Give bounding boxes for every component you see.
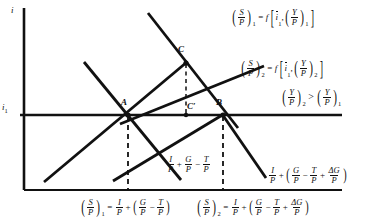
bot1-equals: = — [107, 203, 112, 212]
outer-term-3: T P — [310, 166, 317, 184]
bot1-t3-num: T — [157, 198, 164, 207]
inner-op-1: + — [177, 160, 182, 169]
bot1-lhs: ( S P ) 1 — [80, 198, 105, 216]
inequality-left-den: P — [288, 97, 295, 107]
saving2-function: f — [275, 64, 278, 73]
outer-t4-den: P — [330, 175, 337, 185]
outer-op-3: + — [320, 171, 325, 180]
saving2-arg2-fraction: Y P — [300, 59, 307, 77]
bottom-label-saving-2: ( S P ) 2 = I P + ( G P − T P + ΔG P ) — [196, 198, 310, 216]
y-tick-subscript: 1 — [5, 107, 8, 114]
y-axis-label: i — [11, 6, 14, 15]
saving1-arg1: i — [276, 13, 279, 22]
saving1-arg2-sub: 1 — [305, 21, 308, 28]
bot2-t2-num: G — [255, 198, 263, 207]
saving2-lhs-sub: 2 — [262, 72, 265, 79]
inner-term-3: T P — [203, 155, 210, 173]
outer-t3-den: P — [310, 175, 317, 185]
outer-t3-num: T — [310, 166, 317, 175]
saving1-function: f — [266, 13, 269, 22]
outer-t4-num: ΔG — [327, 166, 340, 175]
equation-saving-2: ( S P ) 2 = f [ i1 , ( Y P ) 2 ] — [240, 59, 324, 77]
y-axis-tick-i1: i1 — [2, 103, 8, 114]
bot2-t1-den: P — [232, 207, 239, 217]
outer-term-4: ΔG P — [327, 166, 340, 184]
paren-open-icon: ( — [133, 200, 136, 214]
bot2-t4-num: ΔG — [290, 198, 303, 207]
point-dot-C — [183, 60, 188, 65]
inequality-left-num: Y — [288, 88, 295, 97]
bot2-t3-num: T — [273, 198, 280, 207]
diagram-vector-layer — [0, 0, 367, 221]
bot2-lhs-den: P — [203, 207, 210, 217]
paren-close-icon: ) — [300, 10, 304, 24]
saving2-arg2-num: Y — [300, 59, 307, 68]
bracket-close-icon: ] — [310, 10, 313, 24]
bot2-t4-den: P — [293, 207, 300, 217]
saving1-arg2-den: P — [291, 17, 298, 27]
bot2-term-1: I P — [232, 198, 239, 216]
outer-t2-num: G — [292, 166, 300, 175]
saving1-equals: = — [258, 13, 263, 22]
paren-close-icon: ) — [166, 200, 169, 214]
investment-curve-label-outer: I P + ( G P − T P + ΔG P ) — [268, 166, 347, 184]
bracket-close-icon: ] — [319, 61, 322, 75]
paren-close-icon: ) — [297, 90, 301, 104]
point-dot-Cprime — [184, 113, 188, 117]
bot2-term-4: ΔG P — [290, 198, 303, 216]
bot2-t1-num: I — [233, 198, 238, 207]
saving1-arg2-fraction: Y P — [291, 8, 298, 26]
inner-t2-num: G — [184, 155, 192, 164]
bot1-op-2: − — [149, 203, 154, 212]
bot1-t1-num: I — [117, 198, 122, 207]
saving1-lhs-num: S — [238, 8, 244, 17]
point-dot-B — [220, 112, 225, 117]
paren-close-icon: ) — [333, 90, 337, 104]
inner-t3-num: T — [203, 155, 210, 164]
paren-open-icon: ( — [294, 61, 298, 75]
bot1-t1-den: P — [116, 207, 123, 217]
bot2-op-2: − — [265, 203, 270, 212]
diagram-canvas: i i1 A B C C′ ( S P ) 1 = f [ i1 , ( Y P… — [0, 0, 367, 221]
inequality-right-fraction: Y P — [323, 88, 330, 106]
saving2-lhs-fraction: S P — [247, 59, 254, 77]
point-label-c-prime: C′ — [187, 102, 196, 111]
inequality-right-sub: 1 — [338, 101, 341, 108]
paren-open-icon: ( — [81, 200, 85, 214]
inner-term-2: G P — [184, 155, 192, 173]
paren-close-icon: ) — [306, 200, 309, 214]
bot2-op-1: + — [242, 203, 247, 212]
inner-term-1: I P — [167, 155, 174, 173]
saving2-lhs-den: P — [247, 68, 254, 78]
inner-t1-num: I — [168, 155, 173, 164]
inner-t2-den: P — [185, 164, 192, 174]
saving2-arg2-den: P — [300, 68, 307, 78]
outer-t1-num: I — [270, 166, 275, 175]
paren-close-icon: ) — [309, 61, 313, 75]
inequality-right-den: P — [323, 97, 330, 107]
inequality-left: ( Y P ) 2 — [281, 88, 306, 106]
saving1-arg1-letter: i — [276, 12, 279, 22]
bot2-t2-den: P — [255, 207, 262, 217]
paren-close-icon: ) — [256, 61, 260, 75]
saving2-lhs-num: S — [247, 59, 253, 68]
equation-saving-1: ( S P ) 1 = f [ i1 , ( Y P ) 1 ] — [231, 8, 315, 26]
bot1-term-1: I P — [116, 198, 123, 216]
outer-term-2: G P — [292, 166, 300, 184]
saving1-lhs: ( S P ) 1 — [231, 8, 256, 26]
saving1-lhs-sub: 1 — [253, 21, 256, 28]
inequality-left-sub: 2 — [303, 101, 306, 108]
bot1-lhs-num: S — [87, 198, 93, 207]
bot2-lhs-num: S — [203, 198, 209, 207]
bot1-lhs-den: P — [87, 207, 94, 217]
saving2-arg1-letter: i — [285, 63, 288, 73]
paren-close-icon: ) — [247, 10, 251, 24]
saving2-arg2-sub: 2 — [314, 72, 317, 79]
saving2-lhs: ( S P ) 2 — [240, 59, 265, 77]
saving1-arg2: ( Y P ) 1 — [284, 8, 309, 26]
bot1-t3-den: P — [157, 207, 164, 217]
outer-t1-den: P — [269, 175, 276, 185]
saving1-lhs-den: P — [238, 17, 245, 27]
bracket-open-icon: [ — [271, 10, 274, 24]
point-label-a: A — [121, 98, 127, 107]
